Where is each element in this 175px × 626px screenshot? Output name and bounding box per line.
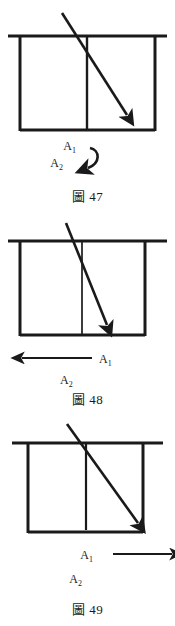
label-a2-base: A: [50, 156, 59, 170]
label-a1-base: A: [63, 139, 72, 153]
label-a1-subscript: 1: [108, 359, 112, 368]
label-a2-base: A: [60, 373, 69, 387]
label-a2-subscript: 2: [69, 380, 73, 388]
incident-ray-arrow: [66, 223, 107, 325]
figure-49-drawing: A1 A2: [0, 411, 175, 601]
label-a2-subscript: 2: [78, 579, 82, 588]
label-a1-subscript: 1: [89, 555, 93, 564]
label-a2: A2: [60, 373, 73, 388]
label-a1-base: A: [99, 352, 108, 366]
label-a2: A2: [50, 156, 63, 172]
figure-49-caption: 圖 49: [0, 599, 175, 618]
figure-47: A1 A2 圖 47: [0, 0, 175, 210]
label-a2-subscript: 2: [59, 163, 63, 172]
label-a1-base: A: [80, 548, 89, 562]
incident-ray-arrow: [67, 424, 138, 523]
label-a1: A1: [63, 139, 76, 155]
label-a1: A1: [80, 548, 93, 564]
label-a2: A2: [69, 572, 82, 588]
label-a1-subscript: 1: [72, 146, 76, 155]
label-a1: A1: [99, 352, 112, 368]
figure-48-drawing: A1 A2: [0, 208, 175, 388]
figure-49: A1 A2 圖 49: [0, 411, 175, 626]
incident-ray-arrow: [62, 13, 127, 115]
figure-47-caption: 圖 47: [0, 186, 175, 205]
figure-48: A1 A2 圖 48: [0, 208, 175, 413]
figure-47-drawing: A1 A2: [0, 0, 175, 185]
figure-48-caption: 圖 48: [0, 389, 175, 408]
label-a2-base: A: [69, 572, 78, 586]
curved-hook-arrow: [88, 148, 98, 168]
